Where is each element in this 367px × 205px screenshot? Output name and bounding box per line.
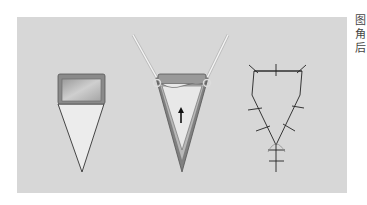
caption-char: 图: [355, 14, 367, 28]
flap-design: [58, 74, 105, 172]
caption-char: 角: [355, 28, 367, 42]
caption-char: 后: [355, 42, 367, 56]
flap-advancement: [133, 35, 228, 172]
caption-text: 图 角 后: [355, 14, 367, 56]
flap-closure: [248, 64, 306, 172]
